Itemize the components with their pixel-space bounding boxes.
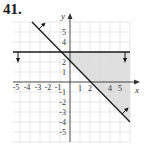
svg-text:-5: -5 <box>59 128 66 137</box>
down-arrow-icon <box>16 52 20 63</box>
x-axis-arrow-icon <box>134 80 140 85</box>
svg-text:5: 5 <box>62 28 66 37</box>
svg-text:5: 5 <box>118 84 122 93</box>
svg-text:-5: -5 <box>13 83 20 92</box>
svg-text:4: 4 <box>62 38 66 47</box>
svg-text:-2: -2 <box>45 83 52 92</box>
y-axis-label: y <box>60 11 65 21</box>
svg-text:2: 2 <box>62 58 66 67</box>
svg-text:-1: -1 <box>59 88 66 97</box>
inequality-graph: x y -5 -4 -3 -2 -1 1 2 4 5 5 4 2 1 -1 -2… <box>0 0 149 149</box>
svg-text:-3: -3 <box>59 108 66 117</box>
y-axis-arrow-icon <box>68 13 73 19</box>
x-axis-label: x <box>134 85 139 95</box>
svg-text:1: 1 <box>62 68 66 77</box>
svg-text:-4: -4 <box>24 83 31 92</box>
svg-text:1: 1 <box>78 84 82 93</box>
svg-text:4: 4 <box>108 84 112 93</box>
svg-text:2: 2 <box>88 84 92 93</box>
svg-text:-3: -3 <box>35 83 42 92</box>
svg-text:-4: -4 <box>59 118 66 127</box>
svg-text:-2: -2 <box>59 98 66 107</box>
